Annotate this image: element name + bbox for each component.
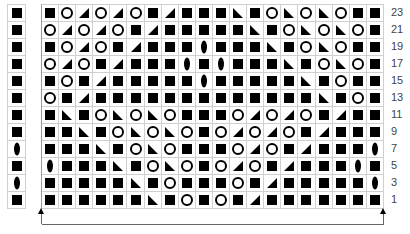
chart-cell: [316, 124, 333, 141]
filled-square-icon: [267, 76, 277, 86]
circle-icon: [318, 58, 330, 70]
circle-icon: [266, 7, 278, 19]
side-row: [8, 5, 26, 22]
filled-square-icon: [370, 93, 380, 103]
chart-cell: [59, 124, 76, 141]
chart-cell: [264, 56, 281, 73]
chart-cell: [350, 39, 367, 56]
right-triangle-icon: [267, 127, 277, 137]
filled-square-icon: [199, 110, 209, 120]
filled-square-icon: [113, 195, 123, 205]
chart-cell: [247, 22, 264, 39]
lens-icon: [372, 143, 378, 156]
chart-cell: [42, 141, 59, 158]
chart-cell: [162, 192, 179, 209]
chart-cell: [367, 107, 384, 124]
circle-icon: [147, 126, 159, 138]
chart-cell: [333, 175, 350, 192]
up-arrow-icon: [38, 208, 44, 214]
circle-icon: [352, 92, 364, 104]
filled-square-icon: [353, 195, 363, 205]
filled-square-icon: [336, 127, 346, 137]
row-label: 17: [391, 55, 403, 72]
filled-square-icon: [216, 25, 226, 35]
lens-icon: [201, 41, 207, 54]
chart-cell: [8, 175, 26, 192]
side-row: [8, 73, 26, 90]
chart-cell: [76, 56, 93, 73]
filled-square-icon: [267, 25, 277, 35]
chart-cell: [93, 124, 110, 141]
right-triangle-icon: [284, 161, 294, 171]
filled-square-icon: [182, 25, 192, 35]
filled-square-icon: [216, 76, 226, 86]
up-arrow-icon: [380, 208, 386, 214]
right-triangle-icon: [79, 8, 89, 18]
chart-cell: [350, 175, 367, 192]
filled-square-icon: [79, 195, 89, 205]
chart-cell: [93, 141, 110, 158]
chart-cell: [162, 124, 179, 141]
chart-cell: [76, 90, 93, 107]
lens-icon: [218, 58, 224, 71]
filled-square-icon: [250, 8, 260, 18]
right-triangle-icon: [113, 8, 123, 18]
chart-cell: [230, 90, 247, 107]
filled-square-icon: [267, 93, 277, 103]
chart-cell: [162, 5, 179, 22]
chart-cell: [93, 90, 110, 107]
filled-square-icon: [199, 59, 209, 69]
chart-cell: [76, 5, 93, 22]
chart-cell: [333, 5, 350, 22]
chart-cell: [145, 141, 162, 158]
chart-cell: [145, 73, 162, 90]
chart-cell: [76, 22, 93, 39]
chart-cell: [230, 56, 247, 73]
chart-cell: [110, 90, 127, 107]
chart-cell: [162, 39, 179, 56]
circle-icon: [181, 160, 193, 172]
right-triangle-icon: [96, 76, 106, 86]
circle-icon: [232, 143, 244, 155]
circle-icon: [130, 7, 142, 19]
circle-icon: [95, 109, 107, 121]
chart-cell: [264, 22, 281, 39]
row-label: 15: [391, 72, 403, 89]
filled-square-icon: [301, 93, 311, 103]
chart-cell: [247, 39, 264, 56]
chart-cell: [162, 22, 179, 39]
chart-cell: [127, 158, 144, 175]
chart-cell: [298, 175, 315, 192]
filled-square-icon: [131, 76, 141, 86]
chart-cell: [350, 73, 367, 90]
filled-square-icon: [96, 59, 106, 69]
right-triangle-icon: [250, 110, 260, 120]
chart-cell: [316, 90, 333, 107]
chart-cell: [350, 107, 367, 124]
filled-square-icon: [45, 8, 55, 18]
chart-cell: [145, 175, 162, 192]
chart-cell: [230, 22, 247, 39]
right-triangle-icon: [233, 161, 243, 171]
circle-icon: [95, 41, 107, 53]
circle-icon: [266, 143, 278, 155]
chart-cell: [367, 5, 384, 22]
chart-cell: [110, 39, 127, 56]
chart-cell: [8, 141, 26, 158]
filled-square-icon: [12, 76, 22, 86]
filled-square-icon: [96, 195, 106, 205]
chart-cell: [59, 90, 76, 107]
chart-cell: [145, 39, 162, 56]
filled-square-icon: [62, 93, 72, 103]
filled-square-icon: [353, 8, 363, 18]
filled-square-icon: [370, 127, 380, 137]
chart-cell: [196, 56, 213, 73]
right-triangle-icon: [336, 110, 346, 120]
chart-cell: [59, 158, 76, 175]
circle-icon: [300, 41, 312, 53]
circle-icon: [78, 58, 90, 70]
filled-square-icon: [182, 42, 192, 52]
chart-cell: [213, 158, 230, 175]
filled-square-icon: [284, 76, 294, 86]
lens-icon: [355, 160, 361, 173]
